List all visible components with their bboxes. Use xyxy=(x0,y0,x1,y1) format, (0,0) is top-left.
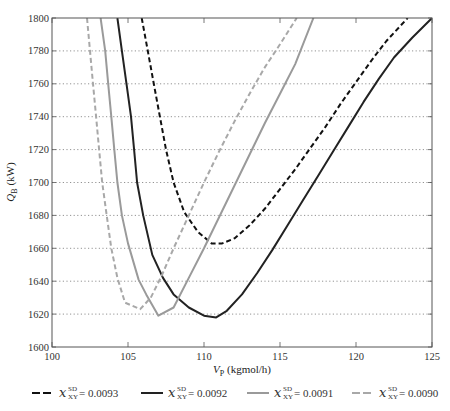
plot-frame xyxy=(52,18,432,347)
y-tick-label: 1780 xyxy=(28,45,49,56)
y-tick-label: 1660 xyxy=(28,243,49,254)
y-axis-label-symbol: Q xyxy=(4,194,16,202)
x-tick-label: 120 xyxy=(348,351,364,362)
y-tick-label: 1640 xyxy=(28,276,49,287)
y-tick-label: 1760 xyxy=(28,78,49,89)
legend-subscript: XY xyxy=(68,393,78,401)
legend-symbol: x xyxy=(274,385,282,400)
x-tick-label: 110 xyxy=(196,351,211,362)
legend-superscript: SD xyxy=(283,385,292,393)
y-axis-label-unit: (kW) xyxy=(4,162,17,186)
legend-label: = 0.0090 xyxy=(399,387,439,399)
y-tick-label: 1700 xyxy=(28,177,49,188)
y-tick-label: 1800 xyxy=(28,13,49,24)
legend-item: xSDXY= 0.0090 xyxy=(352,385,439,401)
x-tick-label: 125 xyxy=(424,351,440,362)
x-axis-label: VP (kgmol/h) xyxy=(213,363,271,378)
legend-label: = 0.0093 xyxy=(79,387,119,399)
y-axis-label: QB (kW) xyxy=(4,162,19,202)
chart: 1600162016401660168017001720174017601780… xyxy=(0,0,450,411)
svg-text:VP (kgmol/h): VP (kgmol/h) xyxy=(213,363,271,378)
legend-superscript: SD xyxy=(177,385,186,393)
x-tick-label: 100 xyxy=(44,351,60,362)
y-tick-label: 1620 xyxy=(28,309,49,320)
legend-subscript: XY xyxy=(177,393,187,401)
legend-symbol: x xyxy=(168,385,176,400)
legend-symbol: x xyxy=(59,385,67,400)
legend-label: = 0.0091 xyxy=(294,387,333,399)
legend-item: xSDXY= 0.0093 xyxy=(32,385,119,401)
x-tick-label: 115 xyxy=(272,351,287,362)
series-line-0.0091 xyxy=(101,18,314,316)
series-line-0.0092 xyxy=(117,18,432,317)
series-line-0.0090 xyxy=(87,18,297,309)
svg-text:QB (kW): QB (kW) xyxy=(4,162,19,202)
legend-subscript: XY xyxy=(283,393,293,401)
y-tick-label: 1680 xyxy=(28,210,49,221)
legend: xSDXY= 0.0093xSDXY= 0.0092xSDXY= 0.0091x… xyxy=(32,385,439,401)
legend-symbol: x xyxy=(379,385,387,400)
legend-superscript: SD xyxy=(388,385,397,393)
x-tick-label: 105 xyxy=(120,351,136,362)
legend-item: xSDXY= 0.0092 xyxy=(141,385,227,401)
legend-item: xSDXY= 0.0091 xyxy=(247,385,333,401)
legend-label: = 0.0092 xyxy=(188,387,227,399)
legend-subscript: XY xyxy=(388,393,398,401)
y-tick-label: 1740 xyxy=(28,111,49,122)
x-axis-label-unit: (kgmol/h) xyxy=(227,363,271,376)
y-tick-label: 1720 xyxy=(28,144,49,155)
legend-superscript: SD xyxy=(68,385,77,393)
series-lines xyxy=(87,18,432,317)
